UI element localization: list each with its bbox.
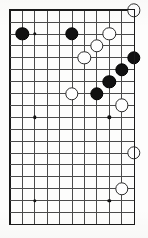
black-stone[interactable]	[65, 27, 78, 40]
grid-line-horizontal	[10, 164, 134, 165]
grid-line-horizontal	[10, 57, 134, 58]
black-stone[interactable]	[127, 51, 140, 64]
star-point	[33, 116, 36, 119]
black-stone[interactable]	[115, 63, 128, 76]
white-stone[interactable]	[127, 3, 140, 16]
board-surface	[0, 0, 148, 238]
white-stone[interactable]	[127, 146, 140, 159]
white-stone[interactable]	[90, 39, 103, 52]
grid-line-horizontal	[10, 141, 134, 142]
black-stone[interactable]	[102, 75, 115, 88]
grid-line-horizontal	[10, 176, 134, 177]
grid-line-horizontal	[10, 224, 134, 226]
star-point	[107, 116, 110, 119]
grid-line-horizontal	[10, 117, 134, 118]
grid-line-horizontal	[10, 200, 134, 201]
grid-line-horizontal	[10, 153, 134, 154]
black-stone[interactable]	[16, 27, 29, 40]
black-stone[interactable]	[90, 87, 103, 100]
star-point	[107, 199, 110, 202]
white-stone[interactable]	[65, 87, 78, 100]
white-stone[interactable]	[78, 51, 91, 64]
white-stone[interactable]	[115, 99, 128, 112]
grid-line-horizontal	[10, 10, 134, 12]
grid-line-horizontal	[10, 22, 134, 23]
go-board-diagram	[0, 0, 148, 238]
grid-line-horizontal	[10, 212, 134, 213]
star-point	[33, 199, 36, 202]
grid-line-horizontal	[10, 45, 134, 46]
star-point	[33, 32, 36, 35]
grid-line-horizontal	[10, 129, 134, 130]
white-stone[interactable]	[102, 27, 115, 40]
white-stone[interactable]	[115, 182, 128, 195]
